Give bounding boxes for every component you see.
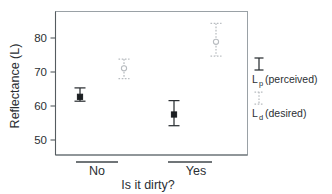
legend-key-desired — [255, 92, 264, 104]
x-category-label-no: No — [89, 164, 105, 178]
errorbar-yes-desired — [211, 23, 222, 56]
plot-frame — [56, 12, 248, 156]
y-tick-label-50: 50 — [34, 134, 47, 146]
reflectance-error-bar-chart: 50 60 70 80 Reflectance (L) — [0, 0, 332, 194]
legend-key-perceived — [255, 58, 264, 70]
legend-label-desired-desc: (desired) — [265, 107, 306, 119]
marker-yes-perceived — [171, 112, 176, 117]
marker-no-desired — [121, 66, 126, 71]
legend-label-perceived-sub: p — [259, 79, 263, 88]
y-tick-label-70: 70 — [34, 66, 47, 78]
x-category-label-yes: Yes — [186, 164, 206, 178]
legend-label-perceived-desc: (perceived) — [265, 73, 318, 85]
legend: L p (perceived) L d (desired) — [252, 58, 318, 122]
y-tick-label-80: 80 — [34, 32, 47, 44]
y-axis-title: Reflectance (L) — [8, 44, 22, 129]
marker-yes-desired — [213, 39, 218, 44]
legend-label-desired-sub: d — [259, 113, 263, 122]
marker-no-perceived — [77, 94, 82, 99]
errorbar-no-perceived — [75, 88, 86, 101]
y-tick-label-60: 60 — [34, 100, 47, 112]
x-axis-title: Is it dirty? — [121, 178, 175, 192]
errorbar-yes-perceived — [169, 101, 180, 126]
chart-canvas: 50 60 70 80 Reflectance (L) — [0, 0, 332, 194]
legend-label-perceived-base: L — [252, 73, 258, 85]
legend-label-desired-base: L — [252, 107, 258, 119]
errorbar-no-desired — [119, 59, 130, 78]
